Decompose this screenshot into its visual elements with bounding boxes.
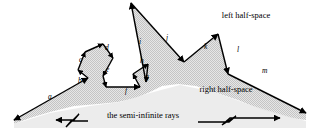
edge-label-l: l	[237, 45, 239, 54]
edge-label-i: i	[139, 37, 141, 46]
edge-label-m: m	[262, 66, 268, 75]
edge-label-g: g	[145, 72, 149, 81]
caption-left-half-space: left half-space	[222, 10, 271, 20]
edge-label-a: a	[48, 92, 52, 101]
edge-label-h: h	[140, 56, 144, 65]
edge-label-e: e	[106, 65, 110, 74]
caption-right-half-space: right half-space	[199, 84, 252, 94]
edge-label-b: b	[78, 76, 82, 85]
edge-label-j: j	[165, 33, 168, 42]
half-space-diagram: a b c d e f g h i j k l m left half-spac…	[0, 0, 317, 136]
edge-label-d: d	[105, 43, 109, 52]
caption-semi-infinite-rays: the semi-infinite rays	[107, 110, 179, 120]
